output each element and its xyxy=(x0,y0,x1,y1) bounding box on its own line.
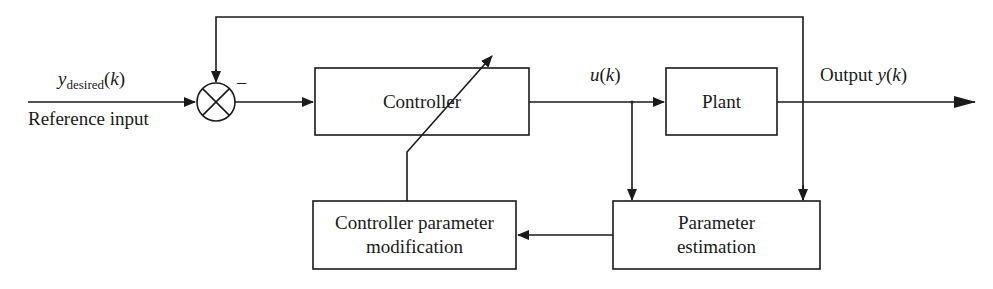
feedback-sign: − xyxy=(236,72,247,94)
plant-label: Plant xyxy=(666,68,777,135)
output-prefix: Output xyxy=(820,64,878,85)
controller-parameter-modification-label: Controller parameter modification xyxy=(313,201,516,269)
param-est-line2: estimation xyxy=(677,235,756,259)
param-mod-line1: Controller parameter xyxy=(335,211,494,235)
reference-input-caption: Reference input xyxy=(28,108,149,130)
reference-arg: (k) xyxy=(104,68,125,89)
output-signal-label: Output y(k) xyxy=(820,64,907,86)
parameter-estimation-label: Parameter estimation xyxy=(613,201,820,269)
summing-junction-icon xyxy=(197,83,235,121)
control-var: u xyxy=(590,64,600,85)
control-signal-label: u(k) xyxy=(590,64,621,86)
reference-subscript: desired xyxy=(66,77,104,92)
reference-signal-label: ydesired(k) xyxy=(58,68,125,96)
controller-label: Controller xyxy=(315,68,529,135)
param-mod-line2: modification xyxy=(366,235,463,259)
param-est-line1: Parameter xyxy=(678,211,755,235)
output-var: y xyxy=(878,64,886,85)
